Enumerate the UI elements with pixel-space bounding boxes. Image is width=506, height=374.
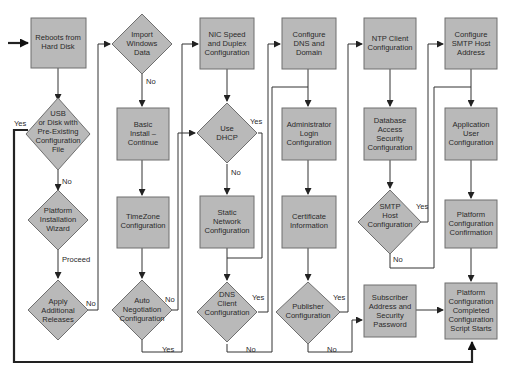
node-admin-login: Administrator Login Configuration [282, 108, 336, 160]
svg-text:File: File [52, 145, 64, 154]
svg-text:DNS: DNS [219, 290, 235, 299]
svg-text:Configuration: Configuration [285, 311, 330, 320]
label-autoneg-no: No [165, 295, 175, 304]
svg-text:Configuration: Configuration [204, 48, 249, 57]
svg-text:Configuration: Configuration [367, 220, 412, 229]
node-db-access: Database Access Security Configuration [364, 108, 416, 160]
edge-autoneg-dhcp [172, 133, 195, 310]
svg-text:Address: Address [457, 48, 485, 57]
node-certificate: Certificate Information [282, 196, 336, 248]
svg-text:Domain: Domain [296, 48, 322, 57]
svg-text:Auto: Auto [134, 296, 150, 305]
svg-text:DNS and: DNS and [294, 39, 325, 48]
svg-text:Hard Disk: Hard Disk [41, 42, 75, 51]
node-nic-speed: NIC Speed and Duplex Configuration [200, 18, 254, 69]
label-smtp-yes: Yes [416, 202, 429, 211]
svg-text:Configuration: Configuration [120, 221, 165, 230]
svg-text:Basic: Basic [134, 120, 153, 129]
svg-text:Configuration: Configuration [204, 226, 249, 235]
svg-text:Confirmation: Confirmation [449, 228, 492, 237]
label-dnsclient-yes: Yes [252, 293, 265, 302]
svg-text:USB: USB [50, 109, 66, 118]
svg-text:Releases: Releases [42, 315, 74, 324]
svg-text:Administrator: Administrator [287, 120, 332, 129]
svg-text:Security: Security [376, 134, 404, 143]
svg-text:Static: Static [218, 208, 237, 217]
svg-text:Installation: Installation [40, 215, 76, 224]
svg-text:Database: Database [374, 116, 407, 125]
svg-text:Application: Application [452, 120, 489, 129]
flowchart-canvas: Yes No Proceed No No No Yes Yes No Yes N… [0, 0, 506, 374]
svg-text:Configuration: Configuration [35, 136, 80, 145]
node-apply-releases: Apply Additional Releases [28, 280, 88, 340]
svg-text:Negotiation: Negotiation [123, 305, 161, 314]
node-ntp-client: NTP Client Configuration [364, 18, 416, 69]
svg-text:Install –: Install – [130, 129, 157, 138]
svg-text:Apply: Apply [49, 297, 68, 306]
svg-text:Configuration: Configuration [448, 219, 493, 228]
node-publisher: Publisher Configuration [276, 282, 340, 344]
svg-text:Windows: Windows [127, 39, 158, 48]
svg-text:User: User [463, 129, 480, 138]
svg-text:NIC Speed: NIC Speed [208, 30, 245, 39]
svg-text:Script Starts: Script Starts [450, 324, 492, 333]
svg-text:Information: Information [290, 221, 328, 230]
svg-text:Configuration: Configuration [286, 138, 331, 147]
svg-text:Configuration: Configuration [204, 308, 249, 317]
svg-text:Certificate: Certificate [292, 212, 326, 221]
svg-text:Additional: Additional [41, 306, 75, 315]
svg-text:SMTP: SMTP [379, 202, 400, 211]
node-application-user: Application User Configuration [445, 108, 497, 160]
label-usb-no: No [62, 177, 72, 186]
svg-text:Configuration: Configuration [367, 143, 412, 152]
node-subscriber: Subscriber Address and Security Password [364, 285, 416, 337]
svg-text:Platform: Platform [44, 206, 72, 215]
svg-text:SMTP Host: SMTP Host [452, 39, 492, 48]
svg-text:Data: Data [134, 48, 151, 57]
svg-text:Configure: Configure [293, 30, 326, 39]
edge-dnsclient-dns [258, 44, 280, 312]
node-configure-dns: Configure DNS and Domain [282, 18, 336, 69]
svg-text:Use: Use [220, 124, 234, 133]
node-basic-install: Basic Install – Continue [117, 108, 169, 160]
svg-text:Reboots from: Reboots from [35, 33, 81, 42]
svg-text:Import: Import [131, 30, 153, 39]
svg-text:Access: Access [378, 125, 403, 134]
edge-apply-import [88, 44, 110, 310]
svg-text:Address and: Address and [369, 302, 412, 311]
svg-text:Configuration: Configuration [448, 138, 493, 147]
node-use-dhcp: Use DHCP [197, 103, 257, 163]
label-dhcp-no: No [231, 168, 241, 177]
svg-text:DHCP: DHCP [216, 133, 238, 142]
edge-smtp-smtphost [421, 44, 443, 222]
svg-text:Password: Password [373, 320, 406, 329]
node-usb-decision: USB or Disk with Pre-Existing Configurat… [26, 98, 90, 170]
node-auto-negotiation: Auto Negotiation Configuration [112, 280, 172, 340]
node-platform-wizard: Platform Installation Wizard [28, 190, 88, 250]
node-dns-client: DNS Client Configuration [197, 282, 257, 342]
node-static-network: Static Network Configuration [200, 196, 254, 248]
node-platform-confirmation: Platform Configuration Confirmation [445, 200, 497, 248]
svg-text:and Duplex: and Duplex [208, 39, 247, 48]
node-import-windows: Import Windows Data [112, 14, 172, 74]
label-smtp-no: No [393, 255, 403, 264]
svg-text:Configure: Configure [455, 30, 488, 39]
svg-text:Network: Network [213, 217, 241, 226]
label-dnsclient-no: No [246, 345, 256, 354]
label-publisher-no: No [327, 345, 337, 354]
svg-text:Continue: Continue [128, 138, 158, 147]
svg-text:Security: Security [376, 311, 404, 320]
label-usb-yes: Yes [14, 119, 27, 128]
svg-text:Login: Login [300, 129, 319, 138]
svg-text:Host: Host [382, 211, 399, 220]
svg-text:Configuration: Configuration [448, 297, 493, 306]
svg-text:Configuration: Configuration [448, 315, 493, 324]
svg-text:Client: Client [217, 299, 237, 308]
label-autoneg-yes: Yes [162, 345, 175, 354]
node-configure-smtp-host: Configure SMTP Host Address [445, 18, 497, 69]
node-reboots: Reboots from Hard Disk [31, 18, 86, 68]
svg-text:NTP Client: NTP Client [372, 34, 409, 43]
label-wizard-proceed: Proceed [62, 255, 90, 264]
node-timezone: TimeZone Configuration [117, 197, 169, 248]
svg-text:Pre-Existing: Pre-Existing [38, 127, 79, 136]
